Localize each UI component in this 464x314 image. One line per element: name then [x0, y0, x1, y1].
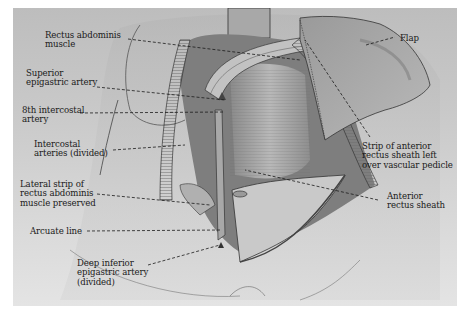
label-anterior-rectus-sheath: Anterior rectus sheath [387, 192, 445, 211]
label-flap: Flap [400, 34, 419, 43]
label-deep-inferior-epigastric-artery: Deep inferior epigastric artery (divided… [77, 259, 148, 287]
label-superior-epigastric-artery: Superior epigastric artery [26, 69, 97, 88]
label-lateral-strip: Lateral strip of rectus abdominis muscle… [20, 180, 96, 208]
label-8th-intercostal-artery: 8th intercostal artery [22, 106, 84, 125]
label-rectus-abdominis-muscle: Rectus abdominis muscle [45, 31, 121, 50]
label-strip-of-anterior-rectus-sheath: Strip of anterior rectus sheath left ove… [362, 142, 453, 170]
label-intercostal-arteries-divided: Intercostal arteries (divided) [34, 140, 108, 159]
label-arcuate-line: Arcuate line [30, 227, 82, 236]
